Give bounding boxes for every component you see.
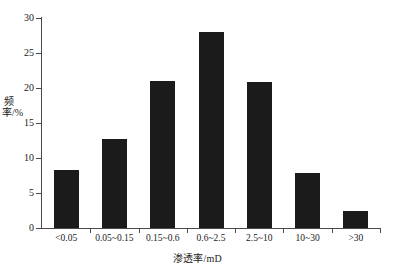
y-axis-tick-label-wrap: 15 [0,118,34,128]
y-axis-tick [36,228,42,229]
x-axis-tick [187,228,188,233]
x-axis-tick [139,228,140,233]
y-axis-title: 频率/% [2,96,16,118]
x-axis-tick-label: 0.05~0.15 [95,234,133,244]
bar [199,32,224,228]
bar-chart-figure: 频率/% 051015202530 <0.050.05~0.150.15~0.6… [0,0,395,276]
y-axis-tick-label: 25 [4,48,34,58]
x-axis-line [41,228,380,229]
y-axis-tick-label-wrap: 10 [0,153,34,163]
y-axis-tick-label: 0 [4,223,34,233]
x-axis-tick-label: <0.05 [55,234,77,244]
x-axis-tick-label: 2.5~10 [246,234,273,244]
x-axis-tick-label: 0.6~2.5 [197,234,226,244]
bar [247,82,272,228]
x-axis-tick [90,228,91,233]
x-axis-title: 渗透率/mD [0,250,395,265]
y-axis-tick-label-wrap: 25 [0,48,34,58]
y-axis-tick-label: 15 [4,118,34,128]
y-axis-tick-label: 5 [4,188,34,198]
bar [102,139,127,228]
bar [295,173,320,228]
y-axis-tick-label: 30 [4,13,34,23]
x-axis-tick [235,228,236,233]
x-axis-tick-label: 0.15~0.6 [146,234,180,244]
y-axis-tick-label: 10 [4,153,34,163]
y-axis-tick-label-wrap: 5 [0,188,34,198]
y-axis-tick-label-wrap: 20 [0,83,34,93]
x-axis-tick [380,228,381,233]
y-axis-tick-label-wrap: 0 [0,223,34,233]
bar [343,211,368,229]
x-axis-tick [332,228,333,233]
y-axis-tick-label: 20 [4,83,34,93]
y-axis-tick-label-wrap: 30 [0,13,34,23]
plot-area [42,18,380,228]
x-axis-tick [283,228,284,233]
bar [54,170,79,228]
x-axis-tick-label: >30 [348,234,363,244]
x-axis-tick-label: 10~30 [295,234,319,244]
bar [150,81,175,228]
